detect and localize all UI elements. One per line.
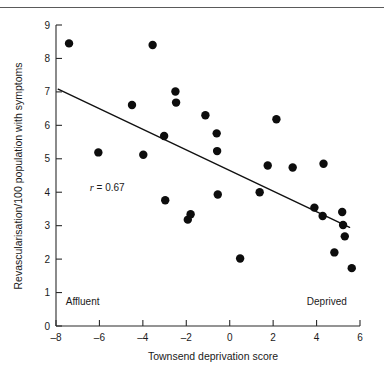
data-point: [272, 115, 280, 123]
data-points: [65, 39, 356, 272]
y-axis-title: Revascularisation/100 population with sy…: [12, 62, 24, 289]
y-tick-label-1: 1: [44, 287, 50, 298]
y-tick-label-2: 2: [44, 254, 50, 265]
x-axis-tick-labels: –8–6–4–20246: [50, 332, 363, 343]
data-point: [94, 148, 102, 156]
deprived-label: Deprived: [307, 296, 347, 307]
x-tick-label-4: 4: [314, 332, 320, 343]
y-tick-label-4: 4: [44, 187, 50, 198]
y-tick-label-5: 5: [44, 153, 50, 164]
data-point: [148, 41, 156, 49]
y-axis-ticks: [56, 25, 62, 326]
y-tick-label-0: 0: [44, 321, 50, 332]
data-point: [128, 101, 136, 109]
y-axis: 0123456789 Revascularisation/100 populat…: [12, 20, 62, 332]
x-tick-label--8: –8: [50, 332, 62, 343]
affluent-label: Affluent: [66, 296, 100, 307]
data-point: [255, 188, 263, 196]
y-tick-label-8: 8: [44, 53, 50, 64]
data-point: [348, 264, 356, 272]
x-tick-label-6: 6: [357, 332, 363, 343]
scatter-plot: 0123456789 Revascularisation/100 populat…: [0, 0, 384, 376]
data-point: [172, 98, 180, 106]
x-tick-label-2: 2: [270, 332, 276, 343]
data-point: [288, 163, 296, 171]
data-point: [65, 39, 73, 47]
x-axis-ticks: [56, 320, 360, 326]
data-point: [161, 196, 169, 204]
correlation-value: = 0.67: [94, 182, 125, 193]
data-point: [264, 161, 272, 169]
x-tick-label--6: –6: [94, 332, 106, 343]
data-point: [319, 160, 327, 168]
y-tick-label-7: 7: [44, 86, 50, 97]
data-point: [341, 232, 349, 240]
y-tick-label-6: 6: [44, 120, 50, 131]
x-tick-label--4: –4: [137, 332, 149, 343]
data-point: [236, 254, 244, 262]
data-point: [139, 151, 147, 159]
y-axis-tick-labels: 0123456789: [44, 20, 50, 332]
data-point: [339, 221, 347, 229]
chart-annotations: r = 0.67 Affluent Deprived: [66, 182, 347, 308]
data-point: [160, 132, 168, 140]
correlation-annotation: r = 0.67: [90, 182, 125, 193]
data-point: [201, 111, 209, 119]
data-point: [330, 248, 338, 256]
data-point: [310, 203, 318, 211]
y-tick-label-3: 3: [44, 220, 50, 231]
data-point: [212, 129, 220, 137]
regression-line: [58, 89, 349, 227]
data-point: [186, 210, 194, 218]
figure-container: 0123456789 Revascularisation/100 populat…: [0, 0, 384, 376]
x-axis: –8–6–4–20246 Townsend deprivation score: [50, 320, 363, 362]
data-point: [214, 190, 222, 198]
y-tick-label-9: 9: [44, 20, 50, 31]
x-tick-label-0: 0: [227, 332, 233, 343]
data-point: [171, 87, 179, 95]
data-point: [318, 212, 326, 220]
x-tick-label--2: –2: [181, 332, 193, 343]
data-point: [213, 147, 221, 155]
data-point: [338, 208, 346, 216]
x-axis-title: Townsend deprivation score: [148, 350, 278, 362]
